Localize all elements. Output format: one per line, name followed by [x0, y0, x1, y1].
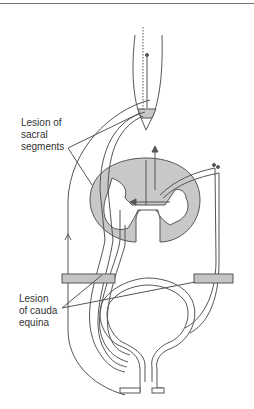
label-line: equina: [19, 317, 57, 329]
label-line: of cauda: [19, 305, 57, 317]
label-lesion-cauda-equina: Lesion of cauda equina: [19, 293, 57, 329]
label-lesion-sacral-segments: Lesion of sacral segments: [21, 117, 64, 153]
bladder-innervation-diagram: [0, 0, 254, 409]
spinal-cord-cross-section: [90, 146, 200, 242]
label-line: Lesion: [19, 293, 57, 305]
label-line: Lesion of: [21, 117, 64, 129]
label-line: sacral: [21, 129, 64, 141]
lesion-bar-left: [62, 274, 115, 283]
lesion-bar-right: [194, 274, 233, 283]
bladder: [100, 278, 195, 393]
label-line: segments: [21, 141, 64, 153]
